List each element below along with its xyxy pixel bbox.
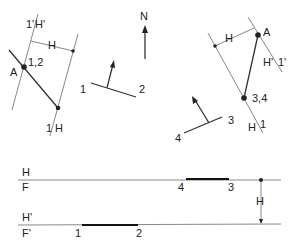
- point-a: [21, 64, 27, 70]
- strike-symbol-34: 4 3: [175, 96, 234, 144]
- left-view: 1' H' H A 1,2 1 H: [9, 14, 78, 136]
- bottom-views: H F 4 3 H H' F' 1 2: [18, 166, 281, 239]
- label-f-line1: F: [22, 181, 29, 193]
- label-hprime: H': [35, 18, 45, 30]
- label-a: A: [10, 66, 18, 78]
- strike-symbol-12: 1 2: [80, 60, 145, 97]
- point-dim-top: [259, 178, 263, 182]
- label-sym-4: 4: [175, 132, 181, 144]
- label-sym-3: 3: [228, 114, 234, 126]
- label-1: 1: [46, 122, 52, 134]
- label-sym-1: 1: [80, 83, 86, 95]
- point-lower: [56, 106, 61, 111]
- label-12: 1,2: [28, 56, 43, 68]
- label-dim-h: H: [256, 195, 264, 207]
- diagram-canvas: 1' H' H A 1,2 1 H N 1 2 4 3 H A: [0, 0, 289, 246]
- point-upper: [71, 49, 75, 53]
- label-34: 3,4: [252, 92, 267, 104]
- label-seg-1: 1: [75, 227, 81, 239]
- label-h-line1: H: [22, 166, 30, 178]
- label-distance-h-right: H: [225, 32, 233, 44]
- label-distance-h: H: [48, 39, 56, 51]
- edge-line-right: [244, 35, 258, 98]
- label-1prime-right: 1': [278, 56, 286, 68]
- point-34: [241, 95, 247, 101]
- point-a-right: [255, 32, 261, 38]
- label-h: H: [55, 122, 63, 134]
- fold-line-hf-prime: [18, 224, 281, 225]
- label-1prime: 1': [26, 18, 34, 30]
- distance-leader-right: [215, 28, 254, 46]
- north-label: N: [140, 10, 148, 22]
- north-arrow-icon: N: [140, 10, 148, 59]
- right-view: H A H' 1' 3,4 H 1: [208, 17, 286, 133]
- label-1-right: 1: [260, 118, 266, 130]
- label-seg-4: 4: [178, 181, 184, 193]
- label-fprime-line2: F': [22, 227, 31, 239]
- dim-arrow-icon: [259, 219, 263, 224]
- point-upper-right: [213, 44, 217, 48]
- label-a-right: A: [263, 26, 271, 38]
- label-hprime-line2: H': [22, 211, 32, 223]
- label-h-right: H: [248, 121, 256, 133]
- label-hprime-right: H': [263, 56, 273, 68]
- label-sym-2: 2: [139, 83, 145, 95]
- label-seg-2: 2: [136, 227, 142, 239]
- label-seg-3: 3: [228, 181, 234, 193]
